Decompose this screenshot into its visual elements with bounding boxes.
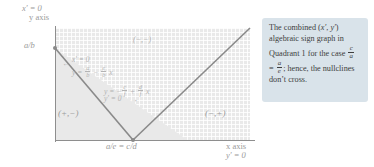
nullcline1-prefix: y = [72,68,84,77]
y-axis-top-label-line2: y axis [29,13,49,23]
y-intercept-tick-label: a/b [24,41,35,51]
region-sign-left: (+,−) [58,108,78,118]
callout-frac1: ca [348,45,353,60]
nullcline2-frac2: df [138,84,143,98]
callout-frac2: ae [277,60,282,75]
vertex-axis-label: a/e = c/d [106,142,137,152]
x-axis-label-line2: y′ = 0 [226,151,246,161]
callout-text-part1: The combined ( [269,23,321,32]
nullcline1-frac2: eb [101,65,106,79]
nullcline1-suffix: x [107,68,112,77]
nullcline1-label-line2: y = ab − eb x [72,65,113,79]
arrow-left-icon: ← [62,59,70,68]
nullcline1-frac1: ab [85,65,90,79]
explanation-callout: The combined (x′, y′) algebraic sign gra… [262,18,368,102]
region-sign-right: (−,+) [205,108,225,118]
nullcline2-frac1: cf [122,84,127,98]
nullcline1-minus: − [91,68,100,77]
sign-graph-figure: x′ = 0 y axis a/b (−,−) (+,−) (−,+) ← x′… [0,0,258,167]
y-intercept-point [53,46,57,50]
arrow-right-icon: → [130,95,138,104]
callout-equals: = [269,63,276,72]
nullcline2-label-line2: y′ = 0 [104,95,122,104]
region-sign-upper: (−,−) [133,35,151,44]
nullcline-yprime [133,28,250,140]
nullcline2-suffix: x [144,87,149,96]
